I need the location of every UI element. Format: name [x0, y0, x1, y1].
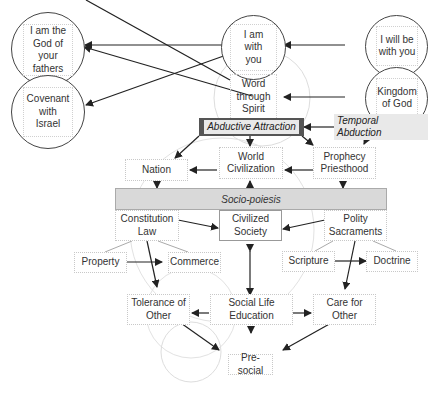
node-covenant-with-israel: Covenant with Israel: [23, 87, 73, 137]
node-god-of-fathers: I am the God of your fathers: [23, 24, 73, 76]
node-commerce: Commerce: [168, 252, 221, 273]
node-prophecy-priesthood: Prophecy Priesthood: [313, 147, 376, 179]
node-constitution-law: Constitution Law: [115, 210, 179, 241]
temporal-abduction-text: Temporal Abduction: [334, 114, 428, 140]
label-abductive-attraction: Abductive Attraction: [199, 118, 304, 136]
band-socio-poiesis: Socio-poiesis: [115, 188, 387, 210]
node-kingdom-of-god: Kingdom of God: [376, 78, 418, 118]
node-pre-social: Pre-social: [228, 354, 273, 375]
node-i-am-with-you: I am with you: [230, 24, 277, 71]
node-care-for-other: Care for Other: [313, 294, 376, 325]
node-tolerance-of-other: Tolerance of Other: [127, 294, 190, 325]
node-nation: Nation: [125, 159, 188, 181]
node-scripture: Scripture: [282, 251, 335, 272]
abductive-attraction-text: Abductive Attraction: [204, 120, 299, 134]
node-property: Property: [74, 252, 127, 273]
node-word-through-spirit: Word through Spirit: [230, 74, 277, 120]
node-social-life-education: Social Life Education: [210, 294, 293, 325]
node-civilized-society: Civilized Society: [219, 210, 282, 241]
node-i-will-be-with-you: I will be with you: [376, 26, 418, 66]
node-polity-sacraments: Polity Sacraments: [324, 210, 387, 241]
label-temporal-abduction: Temporal Abduction: [334, 118, 428, 136]
node-world-civilization: World Civilization: [219, 147, 283, 179]
node-doctrine: Doctrine: [366, 251, 418, 272]
